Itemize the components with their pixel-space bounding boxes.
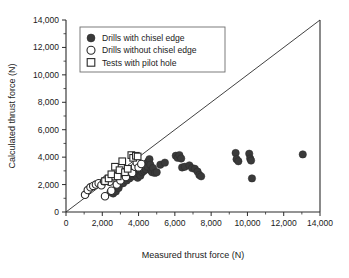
- y-tick-label: 0: [54, 207, 59, 217]
- y-tick-label: 2,000: [38, 180, 60, 190]
- data-point-pilot-hole: [134, 153, 141, 160]
- x-tick-label: 2,000: [92, 218, 114, 228]
- scatter-plot-figure: 02,0004,0006,0008,00010,00012,00014,0000…: [0, 0, 349, 278]
- x-tick-label: 0: [64, 218, 69, 228]
- data-point-no-chisel-edge: [101, 193, 108, 200]
- data-point-pilot-hole: [108, 171, 115, 178]
- x-tick-label: 4,000: [128, 218, 150, 228]
- data-point-chisel-edge: [248, 175, 255, 182]
- legend-label: Drills with chisel edge: [102, 33, 185, 43]
- legend-marker-no-chisel-edge: [87, 46, 95, 54]
- data-point-chisel-edge: [247, 157, 254, 164]
- data-point-pilot-hole: [124, 166, 131, 173]
- legend-label: Tests with pilot hole: [102, 58, 177, 68]
- x-tick-label: 14,000: [307, 218, 333, 228]
- y-tick-label: 14,000: [33, 15, 59, 25]
- y-tick-label: 12,000: [33, 42, 59, 52]
- data-point-chisel-edge: [197, 173, 204, 180]
- legend-label: Drills without chisel edge: [102, 45, 197, 55]
- y-tick-group: 02,0004,0006,0008,00010,00012,00014,000: [33, 15, 66, 217]
- data-point-no-chisel-edge: [138, 160, 145, 167]
- x-tick-label: 12,000: [271, 218, 297, 228]
- data-point-pilot-hole: [119, 158, 126, 165]
- legend: Drills with chisel edgeDrills without ch…: [80, 27, 225, 72]
- data-point-chisel-edge: [178, 155, 185, 162]
- x-axis-title: Measured thrust force (N): [142, 250, 245, 260]
- data-point-chisel-edge: [161, 159, 168, 166]
- y-tick-label: 8,000: [38, 97, 60, 107]
- data-point-chisel-edge: [235, 158, 242, 165]
- y-tick-label: 10,000: [33, 70, 59, 80]
- x-tick-group: 02,0004,0006,0008,00010,00012,00014,000: [64, 212, 334, 228]
- y-tick-label: 6,000: [38, 125, 60, 135]
- data-point-pilot-hole: [114, 173, 121, 180]
- data-point-chisel-edge: [153, 169, 160, 176]
- x-tick-label: 10,000: [234, 218, 260, 228]
- data-point-chisel-edge: [299, 151, 306, 158]
- data-point-no-chisel-edge: [108, 187, 115, 194]
- chart-canvas: 02,0004,0006,0008,00010,00012,00014,0000…: [0, 0, 349, 278]
- y-axis-title: Calculated thrust force (N): [7, 63, 17, 168]
- legend-marker-chisel-edge: [87, 34, 95, 42]
- legend-marker-pilot-hole: [87, 59, 95, 67]
- x-tick-label: 8,000: [201, 218, 223, 228]
- y-tick-label: 4,000: [38, 152, 60, 162]
- x-tick-label: 6,000: [164, 218, 186, 228]
